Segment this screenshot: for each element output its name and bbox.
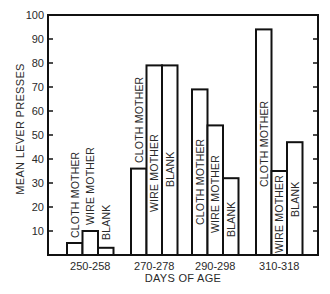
bar-label-cloth: CLOTH MOTHER [69,151,81,238]
x-category-label: 250-258 [70,260,110,272]
bars: CLOTH MOTHERWIRE MOTHERBLANKCLOTH MOTHER… [67,29,303,255]
bar-label-blank: BLANK [289,182,301,217]
bar-chart: 102030405060708090100 CLOTH MOTHERWIRE M… [0,0,330,294]
y-tick-label: 40 [32,153,44,165]
bar-label-blank: BLANK [100,205,112,240]
y-tick-label: 80 [32,57,44,69]
bar-label-wire: WIRE MOTHER [273,175,285,253]
bar-group-290-298: CLOTH MOTHERWIRE MOTHERBLANK [192,89,239,255]
y-tick-label: 20 [32,201,44,213]
y-tick-label: 50 [32,129,44,141]
y-axis-title: MEAN LEVER PRESSES [14,63,26,194]
y-tick-label: 60 [32,105,44,117]
bar-label-wire: WIRE MOTHER [148,134,160,212]
bar-wire-250-258 [83,231,99,255]
bar-label-blank: BLANK [164,152,176,187]
bar-label-cloth: CLOTH MOTHER [258,100,270,187]
bar-group-310-318: CLOTH MOTHERWIRE MOTHERBLANK [256,29,303,255]
bar-label-cloth: CLOTH MOTHER [133,76,145,163]
x-axis: 250-258270-278290-298310-318 [70,260,299,272]
bar-label-cloth: CLOTH MOTHER [194,138,206,225]
bar-label-wire: WIRE MOTHER [84,147,96,225]
x-category-label: 310-318 [259,260,299,272]
x-axis-title: DAYS OF AGE [145,272,221,284]
bar-blank-250-258 [98,248,114,255]
x-category-label: 290-298 [195,260,235,272]
bar-cloth-270-278 [131,169,147,255]
y-tick-label: 70 [32,81,44,93]
x-category-label: 270-278 [134,260,174,272]
bar-label-wire: WIRE MOTHER [209,155,221,233]
y-tick-label: 90 [32,33,44,45]
bar-label-blank: BLANK [225,202,237,237]
y-tick-label: 100 [26,9,44,21]
bar-group-270-278: CLOTH MOTHERWIRE MOTHERBLANK [131,65,178,255]
y-tick-label: 30 [32,177,44,189]
bar-group-250-258: CLOTH MOTHERWIRE MOTHERBLANK [67,147,114,255]
y-tick-label: 10 [32,225,44,237]
bar-cloth-250-258 [67,243,83,255]
